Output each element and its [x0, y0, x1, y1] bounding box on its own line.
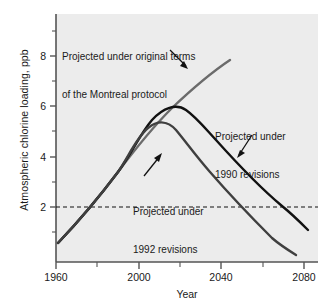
x-tick-label-2080: 2080: [284, 271, 324, 283]
annotation-1990-revisions: Projected under 1990 revisions: [215, 106, 286, 206]
annotation-original-terms: Projected under original terms of the Mo…: [62, 26, 195, 126]
annotation-1990-revisions-line1: Projected under: [215, 131, 286, 144]
annotation-1992-revisions-line1: Projected under: [133, 206, 204, 219]
annotation-1992-revisions: Projected under 1992 revisions: [133, 181, 204, 281]
annotation-original-terms-line1: Projected under original terms: [62, 51, 195, 64]
annotation-1992-revisions-line2: 1992 revisions: [133, 244, 204, 257]
annotation-1990-revisions-line2: 1990 revisions: [215, 169, 286, 182]
chlorine-loading-chart: 8 6 4 2 1960 2000 2040 2080 Atmospheric …: [0, 0, 332, 308]
annotation-original-terms-line2: of the Montreal protocol: [62, 89, 195, 102]
x-axis-title: Year: [56, 288, 318, 300]
x-tick-label-1960: 1960: [36, 271, 76, 283]
y-axis-title: Atmospheric chlorine loading, ppb: [18, 10, 30, 250]
x-tick-label-2040: 2040: [201, 271, 241, 283]
y-axis-ticks: [50, 31, 56, 232]
